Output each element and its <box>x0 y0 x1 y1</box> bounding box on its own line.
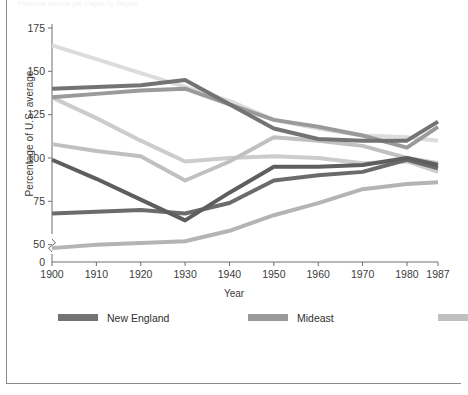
svg-text:1900: 1900 <box>40 268 64 280</box>
svg-text:1920: 1920 <box>129 268 153 280</box>
svg-text:75: 75 <box>33 195 45 207</box>
svg-text:1980: 1980 <box>395 268 419 280</box>
svg-text:1910: 1910 <box>85 268 109 280</box>
svg-text:1987: 1987 <box>426 268 450 280</box>
legend-item[interactable]: New England <box>58 309 248 326</box>
svg-text:50: 50 <box>33 238 45 250</box>
chart-legend: New EnglandMideastGreat LakesPlainsSouth… <box>58 309 458 326</box>
legend-item[interactable]: Mideast <box>248 309 438 326</box>
legend-item[interactable]: Great Lakes <box>438 309 468 326</box>
figure-bottom-rule <box>6 383 461 384</box>
legend-color-swatch <box>58 314 98 321</box>
svg-text:100: 100 <box>27 152 45 164</box>
svg-text:150: 150 <box>27 65 45 77</box>
svg-text:1960: 1960 <box>307 268 331 280</box>
legend-item-label: New England <box>107 312 169 324</box>
svg-text:125: 125 <box>27 108 45 120</box>
svg-text:1950: 1950 <box>262 268 286 280</box>
svg-text:175: 175 <box>27 22 45 34</box>
svg-text:1930: 1930 <box>173 268 197 280</box>
legend-item-label: Mideast <box>297 312 334 324</box>
svg-text:0: 0 <box>39 256 45 268</box>
chart-figure: Personal Income per Capita by Region Per… <box>0 0 468 395</box>
svg-text:1970: 1970 <box>351 268 375 280</box>
legend-color-swatch <box>248 314 288 321</box>
line-chart-plot: 5075100125150175019001910192019301940195… <box>0 0 468 300</box>
svg-text:1940: 1940 <box>218 268 242 280</box>
legend-color-swatch <box>438 314 468 321</box>
